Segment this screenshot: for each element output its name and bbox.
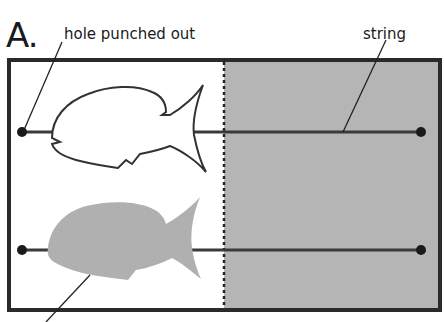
hole-dot-bottom-left bbox=[17, 245, 27, 255]
gray-panel bbox=[224, 60, 440, 310]
hole-dot-top-left bbox=[17, 127, 27, 137]
leader-hole bbox=[24, 42, 62, 130]
hole-dot-top-right bbox=[416, 127, 426, 137]
hole-dot-bottom-right bbox=[416, 245, 426, 255]
fish-string-diagram bbox=[0, 0, 444, 322]
leader-filled-fish bbox=[46, 275, 90, 322]
outline-fish bbox=[52, 85, 206, 172]
filled-fish bbox=[48, 197, 201, 280]
